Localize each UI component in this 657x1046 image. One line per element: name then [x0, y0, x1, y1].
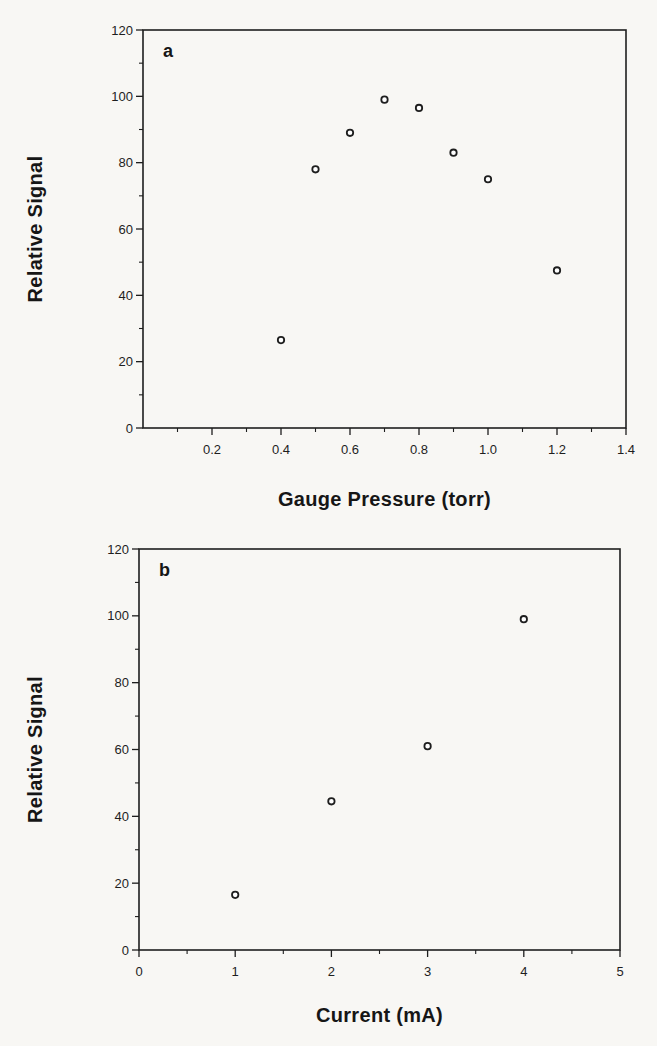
x-axis-tick-label: 1.2	[548, 442, 566, 457]
y-axis-tick-label: 120	[111, 23, 133, 38]
y-axis-tick-label: 80	[119, 155, 133, 170]
data-point	[554, 267, 560, 273]
x-axis-tick-label: 0.4	[272, 442, 290, 457]
data-point	[416, 105, 422, 111]
data-point	[450, 150, 456, 156]
data-point	[424, 743, 430, 749]
x-axis-tick-label: 0	[135, 964, 142, 979]
y-axis-tick-label: 0	[126, 421, 133, 436]
data-point	[521, 616, 527, 622]
x-axis-tick-label: 0.2	[203, 442, 221, 457]
y-axis-tick-label: 20	[115, 876, 129, 891]
y-axis-title: Relative Signal	[24, 156, 46, 303]
y-axis-tick-label: 100	[107, 608, 129, 623]
x-axis-tick-label: 5	[616, 964, 623, 979]
y-axis-tick-label: 20	[119, 354, 133, 369]
x-axis-tick-label: 1.0	[479, 442, 497, 457]
panel-a-chart: 0.20.40.60.81.01.21.4020406080100120aGau…	[0, 0, 657, 523]
x-axis-tick-label: 3	[424, 964, 431, 979]
y-axis-tick-label: 60	[115, 742, 129, 757]
data-point	[485, 176, 491, 182]
y-axis-tick-label: 40	[115, 809, 129, 824]
y-axis-tick-label: 100	[111, 89, 133, 104]
y-axis-tick-label: 80	[115, 675, 129, 690]
data-point	[328, 798, 334, 804]
two-panel-scatter-figure: 0.20.40.60.81.01.21.4020406080100120aGau…	[0, 0, 657, 1046]
panel-b-chart: 012345020406080100120bCurrent (mA)Relati…	[0, 523, 657, 1046]
y-axis-tick-label: 120	[107, 542, 129, 557]
x-axis-tick-label: 1	[232, 964, 239, 979]
data-point	[381, 96, 387, 102]
y-axis-tick-label: 40	[119, 288, 133, 303]
data-point	[232, 892, 238, 898]
y-axis-tick-label: 60	[119, 222, 133, 237]
x-axis-tick-label: 2	[328, 964, 335, 979]
data-point	[347, 130, 353, 136]
plot-frame	[139, 549, 620, 950]
x-axis-tick-label: 0.8	[410, 442, 428, 457]
panel-letter: b	[159, 560, 170, 580]
y-axis-title: Relative Signal	[24, 676, 46, 823]
plot-frame	[143, 30, 626, 428]
x-axis-title: Current (mA)	[316, 1004, 443, 1026]
x-axis-tick-label: 1.4	[617, 442, 635, 457]
data-point	[278, 337, 284, 343]
x-axis-tick-label: 0.6	[341, 442, 359, 457]
panel-letter: a	[163, 41, 174, 61]
data-point	[312, 166, 318, 172]
x-axis-tick-label: 4	[520, 964, 527, 979]
x-axis-title: Gauge Pressure (torr)	[278, 488, 491, 510]
y-axis-tick-label: 0	[122, 943, 129, 958]
